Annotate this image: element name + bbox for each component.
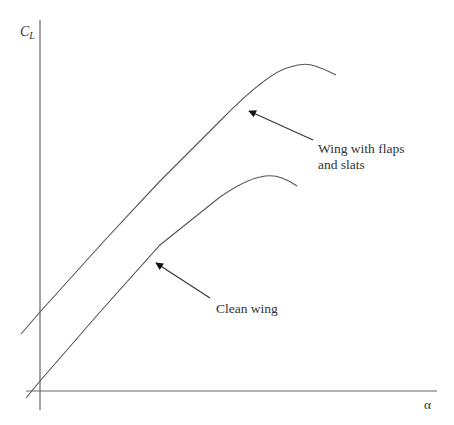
y-axis-label: CL [20,24,35,41]
arrow-flaps-slats [249,111,313,140]
x-axis-label: α [424,397,431,412]
curve-clean-wing [26,176,297,398]
lift-curve-diagram: CL α Wing with flaps and slats Clean win… [0,0,454,425]
label-flaps-line1: Wing with flaps [318,141,404,156]
arrow-clean-wing [156,263,210,298]
label-flaps-line2: and slats [318,157,365,172]
label-clean-wing: Clean wing [216,301,278,316]
curve-flaps-slats [21,64,336,334]
